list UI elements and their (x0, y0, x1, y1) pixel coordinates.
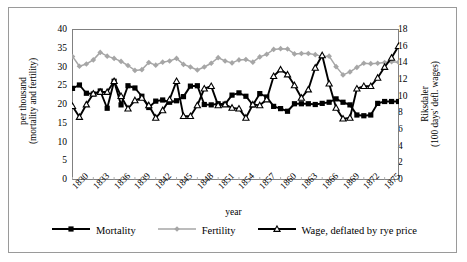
y-tick-label-right: 16 (398, 41, 408, 51)
legend-item[interactable]: Fertility (156, 223, 236, 237)
y-tick-label-left: 30 (58, 62, 68, 72)
chart-legend: Mortality Fertility Wage, deflated by ry… (9, 223, 458, 237)
legend-marker-open-triangle-icon (256, 223, 298, 237)
y-tick-label-left: 20 (58, 99, 68, 109)
y-tick-label-left: 25 (58, 80, 68, 90)
y-tick-label-right: 14 (398, 57, 408, 67)
y-axis-right-title: Riksdaler (100 days' defl. wages) (419, 26, 441, 181)
y-tick-label-left: 35 (58, 43, 68, 53)
y-tick-label-left: 10 (58, 137, 68, 147)
legend-label: Mortality (96, 225, 136, 236)
plot-area (72, 29, 398, 179)
y-tick-label-left: 5 (62, 155, 67, 165)
y-axis-right-title-line1: Riksdaler (420, 86, 430, 122)
y-axis-left-title-line2: (mortality and fertility) (28, 58, 38, 144)
legend-marker-filled-diamond-icon (156, 223, 198, 237)
legend-label: Fertility (202, 225, 236, 236)
y-tick-label-left: 0 (62, 174, 67, 184)
y-tick-label-left: 15 (58, 118, 68, 128)
legend-marker-filled-square-icon (50, 223, 92, 237)
y-tick-label-right: 12 (398, 74, 408, 84)
y-tick-label-right: 18 (398, 24, 408, 34)
y-tick-label-right: 10 (398, 91, 408, 101)
y-axis-left-title-line1: per thousand (18, 77, 28, 125)
chart-figure: per thousand (mortality and fertility) R… (8, 7, 457, 253)
legend-item[interactable]: Mortality (50, 223, 136, 237)
y-axis-left-title: per thousand (mortality and fertility) (18, 26, 38, 176)
y-axis-right-title-line2: (100 days' defl. wages) (430, 61, 440, 147)
legend-label: Wage, deflated by rye price (302, 225, 417, 236)
y-tick-label-left: 40 (58, 24, 68, 34)
x-axis-title: year (9, 207, 458, 217)
legend-item[interactable]: Wage, deflated by rye price (256, 223, 417, 237)
